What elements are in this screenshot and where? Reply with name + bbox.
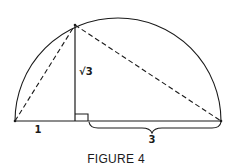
semicircle-arc <box>15 18 221 121</box>
label-right-segment: 3 <box>149 134 156 145</box>
label-left-segment: 1 <box>35 124 42 135</box>
dashed-chord-left <box>15 25 75 121</box>
dashed-chord-right <box>75 25 221 121</box>
apex-point <box>74 24 77 27</box>
figure-caption: FIGURE 4 <box>87 152 145 166</box>
left-endpoint <box>14 120 17 123</box>
curly-brace <box>89 122 221 133</box>
semicircle-geometry-figure: 1 √3 3 FIGURE 4 <box>0 0 233 168</box>
label-altitude: √3 <box>79 66 93 77</box>
right-angle-marker <box>75 114 88 121</box>
right-endpoint <box>220 120 223 123</box>
